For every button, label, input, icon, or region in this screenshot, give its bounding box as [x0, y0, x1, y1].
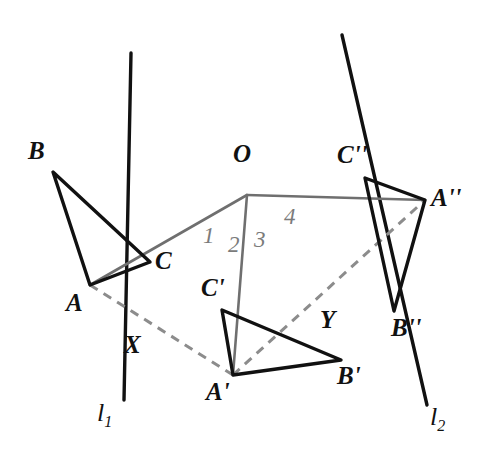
point-label-Y: Y [320, 307, 335, 332]
point-label-B-double-prime: B'' [391, 315, 422, 340]
point-label-O: O [233, 141, 251, 166]
point-label-A: A [66, 290, 83, 315]
point-label-B: B [28, 138, 45, 163]
point-label-X: X [124, 332, 141, 357]
geometry-figure: O A B C A' B' C' A'' B'' C'' X Y l1 l2 1… [0, 0, 493, 476]
point-label-A-prime: A' [206, 379, 230, 404]
line-l2 [342, 35, 427, 405]
point-label-B-prime: B' [337, 363, 361, 388]
angle-label-2: 2 [228, 233, 240, 256]
line-label-l1-subscript: 1 [104, 413, 112, 430]
line-label-l2-subscript: 2 [437, 417, 445, 434]
ray-O-to-Ap [233, 195, 247, 375]
triangle-ABC [53, 172, 150, 285]
line-label-l2: l2 [430, 404, 445, 434]
angle-label-4: 4 [284, 205, 296, 228]
figure-canvas [0, 0, 493, 476]
angle-label-3: 3 [254, 228, 266, 251]
line-label-l1: l1 [97, 400, 112, 430]
point-label-C-prime: C' [201, 275, 225, 300]
point-label-C: C [155, 248, 172, 273]
ray-O-to-App [247, 195, 425, 200]
angle-label-1: 1 [203, 224, 215, 247]
point-label-A-double-prime: A'' [431, 185, 462, 210]
point-label-C-double-prime: C'' [337, 142, 368, 167]
